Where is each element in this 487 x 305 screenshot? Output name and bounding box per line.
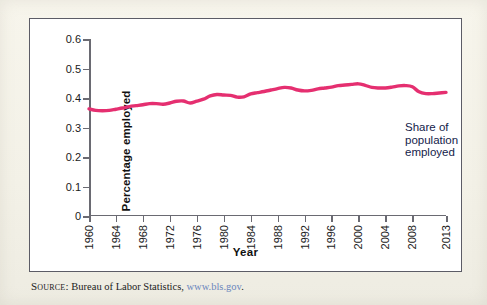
x-tick-label: 1964 [110, 225, 122, 249]
y-tick-label: 0.5 [66, 63, 81, 75]
x-tick-mark [446, 216, 448, 222]
source-url-link[interactable]: www.bls.gov [187, 281, 242, 292]
x-tick-mark [305, 216, 307, 222]
x-tick-mark [251, 216, 253, 222]
data-line-chart [89, 39, 446, 216]
source-trailing-punctuation: . [241, 281, 244, 292]
x-tick-mark [89, 216, 91, 222]
series-annotation-label: Share of population employed [405, 121, 458, 159]
y-tick-label: 0.3 [66, 122, 81, 134]
x-tick-mark [358, 216, 360, 222]
source-label: Source: [31, 280, 69, 292]
x-tick-mark [224, 216, 226, 222]
x-tick-label: 1984 [245, 225, 257, 249]
x-tick-label: 1972 [164, 225, 176, 249]
x-tick-mark [197, 216, 199, 222]
x-tick-label: 2000 [352, 225, 364, 249]
y-tick-label: 0.1 [66, 181, 81, 193]
y-tick-label: 0 [75, 210, 81, 222]
x-tick-mark [385, 216, 387, 222]
x-tick-label: 2013 [440, 225, 452, 249]
x-tick-mark [278, 216, 280, 222]
y-tick-label: 0.6 [66, 33, 81, 45]
x-tick-label: 2008 [406, 225, 418, 249]
x-tick-mark [412, 216, 414, 222]
figure-frame: Percentage employed Year 00.10.20.30.40.… [29, 18, 462, 272]
page-background: Percentage employed Year 00.10.20.30.40.… [0, 0, 487, 305]
x-tick-mark [143, 216, 145, 222]
x-tick-label: 2004 [379, 225, 391, 249]
source-text: Bureau of Labor Statistics, [69, 281, 187, 292]
x-tick-label: 1992 [299, 225, 311, 249]
x-tick-label: 1968 [137, 225, 149, 249]
y-tick-label: 0.2 [66, 151, 81, 163]
x-tick-label: 1980 [218, 225, 230, 249]
x-tick-mark [170, 216, 172, 222]
plot-area: 00.10.20.30.40.50.6 19601964196819721976… [89, 39, 446, 216]
x-tick-label: 1988 [272, 225, 284, 249]
x-tick-label: 1976 [191, 225, 203, 249]
x-tick-label: 1996 [325, 225, 337, 249]
x-tick-mark [331, 216, 333, 222]
series-line-share-of-population-employed [89, 84, 446, 111]
x-tick-label: 1960 [83, 225, 95, 249]
y-tick-label: 0.4 [66, 92, 81, 104]
source-note: Source: Bureau of Labor Statistics, www.… [31, 280, 244, 292]
x-tick-mark [116, 216, 118, 222]
